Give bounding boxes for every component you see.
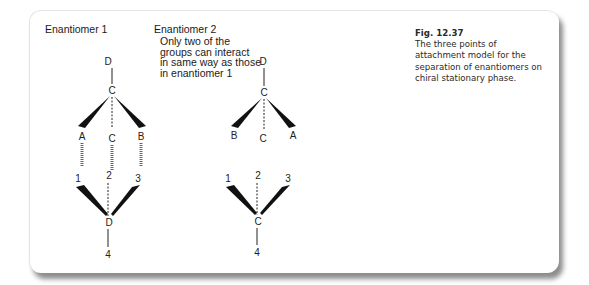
site-label: 2 <box>106 170 112 181</box>
atom-label: B <box>231 130 238 141</box>
atom-label: C <box>108 133 115 144</box>
atom-label: D <box>105 217 112 228</box>
wedge-bond-icon <box>260 185 290 215</box>
atom-label: A <box>79 131 86 142</box>
wedge-bond-icon <box>78 96 110 128</box>
atom-label: D <box>104 56 111 67</box>
atom-label: D <box>259 56 266 67</box>
wedge-bond-icon <box>111 185 140 216</box>
site-label: 2 <box>255 170 261 181</box>
enantiomer-2-phase: 1 2 3 C 4 <box>225 170 291 258</box>
wedge-bond-icon <box>226 185 257 215</box>
site-label: 4 <box>254 247 260 258</box>
site-label: 1 <box>75 173 81 184</box>
atom-label: C <box>108 85 115 96</box>
atom-label: C <box>259 133 266 144</box>
atom-label: B <box>138 131 145 142</box>
site-label: 3 <box>285 173 291 184</box>
site-label: 4 <box>105 249 111 260</box>
atom-label: A <box>290 130 297 141</box>
atom-label: C <box>260 87 267 98</box>
wedge-bond-icon <box>231 98 262 128</box>
interaction-lines <box>82 143 141 170</box>
atom-label: C <box>254 216 261 227</box>
wedge-bond-icon <box>266 98 296 128</box>
enantiomer-2-molecule: D C B C A <box>231 56 297 144</box>
site-label: 3 <box>135 173 141 184</box>
diagram-canvas: D C A C B 1 2 3 D 4 D C B C A <box>0 0 589 285</box>
wedge-bond-icon <box>114 96 146 128</box>
enantiomer-1-phase: 1 2 3 D 4 <box>75 170 141 260</box>
wedge-bond-icon <box>76 185 108 216</box>
enantiomer-1-molecule: D C A C B <box>78 56 146 144</box>
site-label: 1 <box>225 173 231 184</box>
